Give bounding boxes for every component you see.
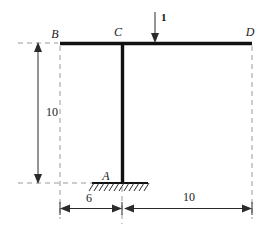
load-arrowhead: [151, 33, 159, 43]
frame-members: [60, 43, 252, 183]
structural-frame-diagram: B C D A 1 10 6 10: [0, 0, 271, 240]
span-cd-arrowhead-right: [242, 205, 252, 213]
dimension-height: [34, 42, 42, 184]
node-label-b: B: [51, 27, 59, 41]
point-load-arrow: [151, 12, 159, 43]
node-label-d: D: [245, 25, 255, 39]
dimension-label-height: 10: [46, 105, 58, 119]
node-label-c: C: [114, 25, 123, 39]
dimension-label-span-cd: 10: [183, 190, 195, 204]
load-magnitude-label: 1: [161, 11, 167, 23]
node-label-a: A: [101, 169, 110, 183]
span-bc-arrowhead-right: [112, 205, 122, 213]
fixed-support-a: [89, 183, 149, 191]
diagram-labels: B C D A 1 10 6 10: [46, 11, 255, 205]
span-cd-arrowhead-left: [124, 205, 134, 213]
span-bc-arrowhead-left: [60, 205, 70, 213]
dimension-label-span-bc: 6: [86, 191, 92, 205]
support-hatching: [89, 183, 149, 191]
guide-lines: [18, 43, 252, 224]
diagram-canvas: B C D A 1 10 6 10: [0, 0, 271, 240]
